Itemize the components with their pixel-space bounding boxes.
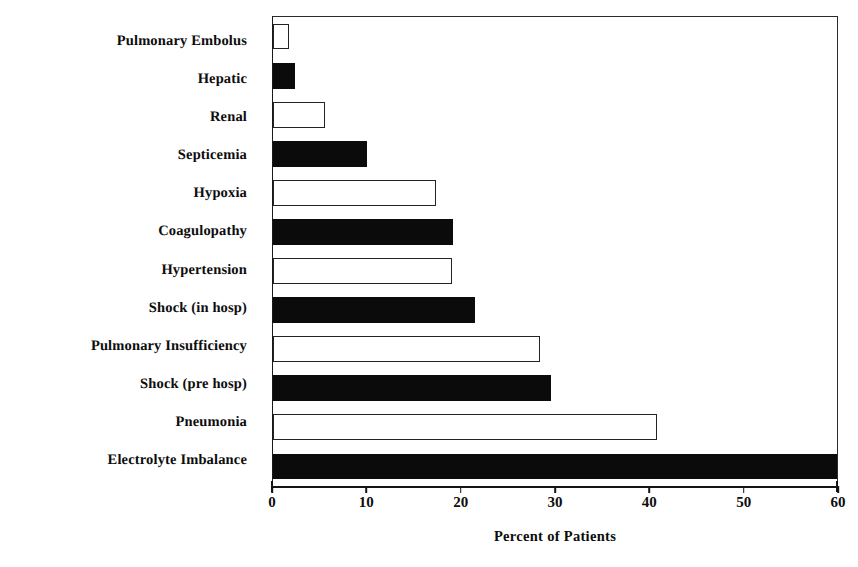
bar-row [273,212,837,251]
bar-coagulopathy [273,219,453,245]
x-axis-tick [649,486,651,493]
y-axis-label-coagulopathy: Coagulopathy [0,213,255,251]
y-axis-label-shock-pre-hosp: Shock (pre hosp) [0,366,255,404]
x-axis-tick [743,486,745,493]
bar-row [273,408,837,447]
y-axis-label-shock-in-hosp: Shock (in hosp) [0,289,255,327]
x-axis-tick-labels: 0102030405060 [272,494,838,518]
bar-hypoxia [273,180,436,206]
bar-shock-in-hosp [273,297,475,323]
x-axis-tick [366,486,368,493]
x-axis-tick-label: 50 [736,494,751,511]
bar-row [273,134,837,173]
bar-pulmonary-insufficiency [273,336,540,362]
y-axis-label-hypoxia: Hypoxia [0,175,255,213]
bar-row [273,330,837,369]
x-axis-tick-label: 60 [831,494,846,511]
y-axis-label-septicemia: Septicemia [0,137,255,175]
bar-pneumonia [273,414,657,440]
x-axis-title: Percent of Patients [272,528,838,545]
bar-row [273,17,837,56]
y-axis-label-pulmonary-insufficiency: Pulmonary Insufficiency [0,327,255,365]
bar-hepatic [273,63,295,89]
bar-row [273,447,837,486]
x-axis-tick [460,486,462,493]
y-axis-label-hepatic: Hepatic [0,60,255,98]
x-axis-tick-label: 20 [453,494,468,511]
bar-renal [273,102,325,128]
bar-electrolyte-imbalance [273,454,837,480]
bar-row [273,56,837,95]
y-axis-label-pneumonia: Pneumonia [0,404,255,442]
bar-row [273,251,837,290]
x-axis-tick [271,486,273,493]
x-axis-tick [554,486,556,493]
bar-row [273,173,837,212]
bar-shock-pre-hosp [273,375,551,401]
y-axis-label-pulmonary-embolus: Pulmonary Embolus [0,22,255,60]
y-axis-label-hypertension: Hypertension [0,251,255,289]
bar-hypertension [273,258,452,284]
bar-row [273,95,837,134]
x-axis-tick-label: 30 [548,494,563,511]
x-axis-tick [837,486,839,493]
y-axis-label-renal: Renal [0,98,255,136]
plot-area [272,16,838,486]
y-axis-category-labels: Pulmonary Embolus Hepatic Renal Septicem… [0,22,255,480]
bar-chart-figure: Pulmonary Embolus Hepatic Renal Septicem… [0,0,858,567]
x-axis-tick-label: 40 [642,494,657,511]
x-axis-tick-label: 10 [359,494,374,511]
y-axis-label-electrolyte-imbalance: Electrolyte Imbalance [0,442,255,480]
bar-row [273,291,837,330]
x-axis-tick-label: 0 [268,494,276,511]
bar-row [273,369,837,408]
bar-pulmonary-embolus [273,24,289,50]
bar-series [273,17,837,486]
bar-septicemia [273,141,367,167]
